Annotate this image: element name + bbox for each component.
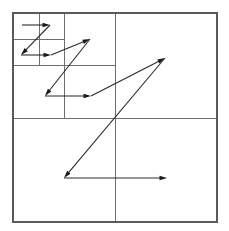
quadtree-figure [0,0,229,231]
quadtree-z-order-diagram [0,0,229,231]
